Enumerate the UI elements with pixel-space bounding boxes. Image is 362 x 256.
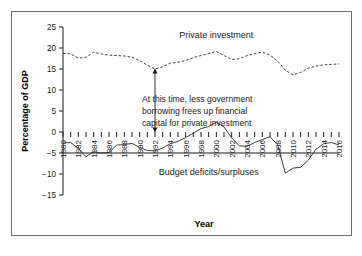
y-tick-label: 20 [47, 44, 57, 53]
x-axis-ticks [63, 132, 339, 137]
annotation-line-3: capital for private investment [142, 118, 252, 128]
x-tick-label: 1984 [90, 139, 99, 157]
x-axis-tick-labels: 1980198219841986198819901992199419961998… [59, 139, 344, 157]
y-tick-label: −15 [42, 191, 56, 200]
budget-deficits-label: Budget deficits/surpluses [159, 167, 260, 177]
y-tick-label: 0 [51, 128, 56, 137]
y-axis-title: Percentage of GDP [20, 70, 30, 152]
x-tick-label: 1996 [182, 139, 191, 157]
y-axis-ticks [59, 27, 63, 195]
annotation-line-1: At this time, less government [142, 94, 253, 104]
x-tick-label: 2006 [258, 139, 267, 157]
chart-frame: 2520151050−5−10−15 198019821984198619881… [11, 11, 352, 236]
chart-canvas: 2520151050−5−10−15 198019821984198619881… [12, 12, 350, 234]
x-tick-label: 2016 [335, 139, 344, 157]
y-tick-label: 15 [47, 65, 57, 74]
x-axis-title: Year [194, 219, 214, 229]
x-tick-label: 2014 [320, 139, 329, 157]
y-tick-label: −10 [42, 170, 56, 179]
private-investment-label: Private investment [179, 30, 254, 40]
y-axis-tick-labels: 2520151050−5−10−15 [42, 23, 56, 200]
x-tick-label: 1988 [120, 139, 129, 157]
y-tick-label: 5 [51, 107, 56, 116]
y-tick-label: 25 [47, 23, 57, 32]
annotation-arrow-head-top [152, 69, 157, 74]
x-tick-label: 1980 [59, 139, 68, 157]
x-tick-label: 2004 [243, 139, 252, 157]
figure-container: 2520151050−5−10−15 198019821984198619881… [0, 0, 362, 256]
y-tick-label: 10 [47, 86, 57, 95]
annotation-line-2: borrowing frees up financial [142, 106, 247, 116]
x-tick-label: 2010 [289, 139, 298, 157]
x-tick-label: 1992 [151, 139, 160, 157]
x-tick-label: 1998 [197, 139, 206, 157]
y-tick-label: −5 [47, 149, 57, 158]
annotation-arrow-head-bottom [152, 127, 157, 132]
series-private-investment [63, 51, 339, 75]
x-tick-label: 2000 [212, 139, 221, 157]
